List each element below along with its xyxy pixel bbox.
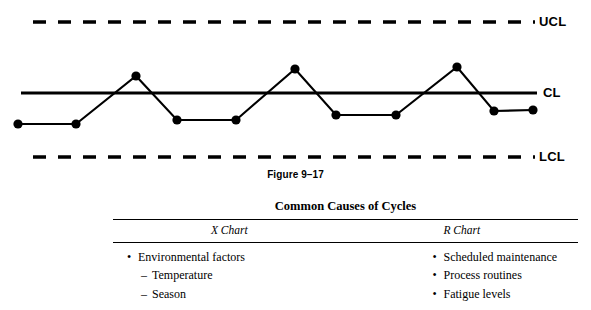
control-chart-canvas [0,0,591,190]
list-item: •Process routines [433,266,579,285]
data-series-line [18,67,533,124]
table-title: Common Causes of Cycles [113,200,578,219]
list-item: •Fatigue levels [433,285,579,304]
bullet-marker: • [433,248,444,267]
data-point [489,106,498,115]
data-point [452,62,461,71]
data-point [331,110,340,119]
list-item-label: Temperature [152,268,212,282]
figure-caption: Figure 9–17 [0,169,591,180]
bullet-marker: • [433,285,444,304]
x-chart-cell: •Environmental factors –Temperature –Sea… [113,248,346,304]
table-body-row: •Environmental factors –Temperature –Sea… [113,243,578,304]
dash-marker: – [141,266,152,285]
list-item: •Environmental factors [127,248,346,267]
data-point [131,71,140,80]
data-point [71,119,80,128]
data-point [231,115,240,124]
data-point [13,119,22,128]
bullet-marker: • [127,248,138,267]
list-item: –Season [127,285,346,304]
list-item-label: Season [152,287,186,301]
data-point [391,110,400,119]
control-chart: UCL CL LCL Figure 9–17 [0,0,591,190]
list-item-label: Process routines [444,268,522,282]
column-header-x-chart: X Chart [113,224,346,238]
data-point [172,115,181,124]
list-item-label: Fatigue levels [444,287,511,301]
common-causes-table: Common Causes of Cycles X Chart R Chart … [113,200,578,303]
table-header-row: X Chart R Chart [113,220,578,242]
ucl-label: UCL [539,15,566,28]
list-item-label: Environmental factors [138,250,245,264]
data-point-markers [13,62,537,128]
x-chart-cause-list: •Environmental factors –Temperature –Sea… [127,248,346,304]
column-header-r-chart: R Chart [346,224,579,238]
r-chart-cell: •Scheduled maintenance •Process routines… [346,248,579,304]
list-item: –Temperature [127,266,346,285]
list-item-label: Scheduled maintenance [444,250,558,264]
cl-label: CL [543,86,561,99]
data-point [528,105,537,114]
dash-marker: – [141,285,152,304]
data-point [290,64,299,73]
r-chart-cause-list: •Scheduled maintenance •Process routines… [433,248,579,304]
lcl-label: LCL [539,150,565,163]
bullet-marker: • [433,266,444,285]
list-item: •Scheduled maintenance [433,248,579,267]
